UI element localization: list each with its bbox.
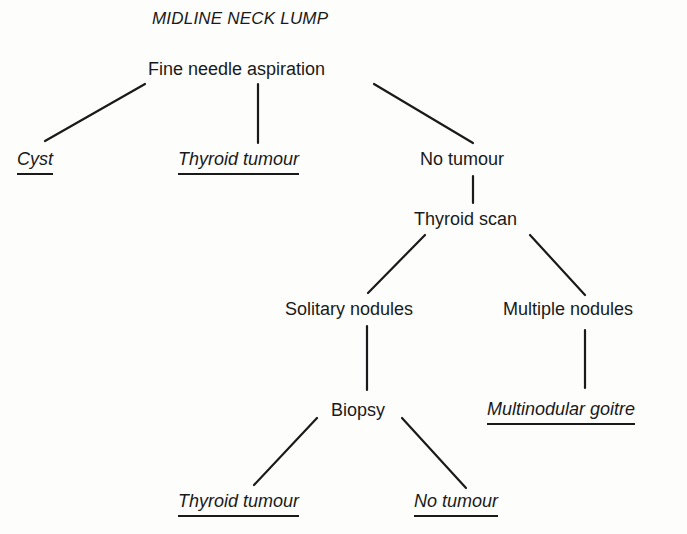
node-fine-needle-aspiration: Fine needle aspiration: [148, 58, 325, 80]
node-biopsy: Biopsy: [331, 399, 385, 421]
outcome-thyroid-tumour-1: Thyroid tumour: [178, 148, 299, 175]
node-solitary-nodules: Solitary nodules: [285, 298, 413, 320]
outcome-cyst: Cyst: [17, 148, 53, 175]
edge-fna-cyst: [45, 84, 145, 141]
outcome-thyroid-tumour-2: Thyroid tumour: [178, 490, 299, 517]
node-multiple-nodules: Multiple nodules: [503, 298, 633, 320]
outcome-multinodular-goitre: Multinodular goitre: [487, 398, 635, 425]
edge-biopsy-thyroid-tumour: [254, 418, 317, 485]
edge-biopsy-no-tumour: [402, 418, 466, 488]
edge-scan-multiple: [530, 235, 585, 295]
outcome-no-tumour-2: No tumour: [414, 490, 498, 517]
edge-fna-no-tumour: [374, 84, 473, 143]
flowchart-edges: [0, 0, 687, 534]
diagram-title: MIDLINE NECK LUMP: [152, 8, 328, 30]
node-thyroid-scan: Thyroid scan: [414, 208, 517, 230]
edge-scan-solitary: [368, 235, 425, 293]
flowchart-canvas: MIDLINE NECK LUMP Fine needle aspiration…: [0, 0, 687, 534]
node-no-tumour: No tumour: [420, 148, 504, 170]
